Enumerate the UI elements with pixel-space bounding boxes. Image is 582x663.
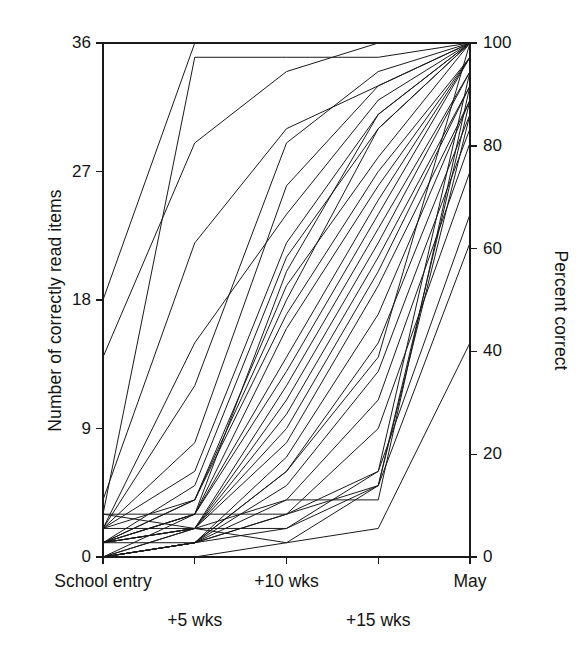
x-axis-tick-label: May — [453, 571, 486, 592]
y-axis-left-tick-label: 27 — [72, 162, 91, 182]
x-axis-tick-label: +15 wks — [346, 610, 411, 631]
y-axis-right-tick-label: 0 — [483, 547, 492, 567]
y-axis-right-tick-label: 100 — [483, 33, 511, 53]
data-line — [103, 43, 470, 300]
y-axis-left-tick-label: 18 — [72, 290, 91, 310]
data-line-group — [103, 43, 470, 557]
x-axis-tick-label: +10 wks — [254, 571, 319, 592]
y-axis-right-tick-label: 80 — [483, 136, 502, 156]
data-line — [103, 43, 470, 543]
y-axis-left-tick-label: 9 — [82, 419, 91, 439]
y-axis-right-tick-label: 20 — [483, 444, 502, 464]
y-axis-right-tick-label: 60 — [483, 239, 502, 259]
data-line — [103, 43, 470, 543]
data-line — [103, 143, 470, 557]
y-axis-right-title: Percent correct — [550, 181, 571, 441]
y-axis-left-tick-label: 36 — [72, 33, 91, 53]
data-line — [103, 43, 470, 543]
chart-figure: Number of correctly read items Percent c… — [0, 0, 582, 663]
x-axis-tick-label: School entry — [54, 571, 151, 592]
data-line — [103, 129, 470, 557]
data-line — [103, 100, 470, 514]
data-line — [103, 86, 470, 557]
data-line — [103, 343, 470, 557]
y-axis-left-title: Number of correctly read items — [45, 146, 66, 476]
y-axis-left-tick-label: 0 — [82, 547, 91, 567]
x-axis-tick-label: +5 wks — [167, 610, 222, 631]
y-axis-right-tick-label: 40 — [483, 341, 502, 361]
